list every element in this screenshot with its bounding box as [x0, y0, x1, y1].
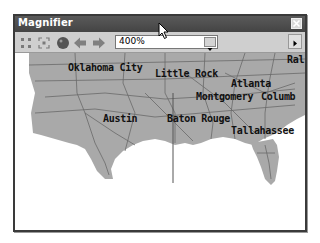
map-label-tallahassee: Tallahassee	[231, 125, 294, 136]
map-label-baton-rouge: Baton Rouge	[167, 113, 230, 124]
magnifier-window: Magnifier	[13, 14, 307, 232]
map-label-montgomery: Montgomery	[196, 91, 253, 102]
map-label-columbia: Columb	[261, 91, 295, 102]
map-label-raleigh: Ral	[287, 54, 304, 65]
close-button[interactable]	[291, 18, 302, 29]
record-icon[interactable]	[56, 35, 70, 49]
map-label-little-rock: Little Rock	[155, 68, 218, 79]
back-arrow-icon[interactable]	[73, 35, 87, 49]
window-title: Magnifier	[18, 17, 73, 28]
zoom-level-value: 400%	[119, 36, 145, 46]
chevron-down-icon	[205, 45, 215, 53]
map-label-oklahoma-city: Oklahoma City	[68, 62, 142, 73]
forward-arrow-icon[interactable]	[92, 35, 106, 49]
toolbar-more-button[interactable]	[288, 34, 302, 49]
close-icon	[292, 19, 301, 28]
magnified-map-view[interactable]: Oklahoma City Little Rock Ral Atlanta Mo…	[25, 53, 305, 193]
map-label-atlanta: Atlanta	[231, 78, 271, 89]
collapse-icon[interactable]	[19, 35, 33, 49]
zoom-dropdown-button[interactable]	[204, 37, 216, 47]
map-label-austin: Austin	[103, 113, 137, 124]
chevron-right-icon	[289, 37, 301, 50]
expand-icon[interactable]	[37, 35, 51, 49]
mouse-cursor-icon	[158, 22, 170, 40]
